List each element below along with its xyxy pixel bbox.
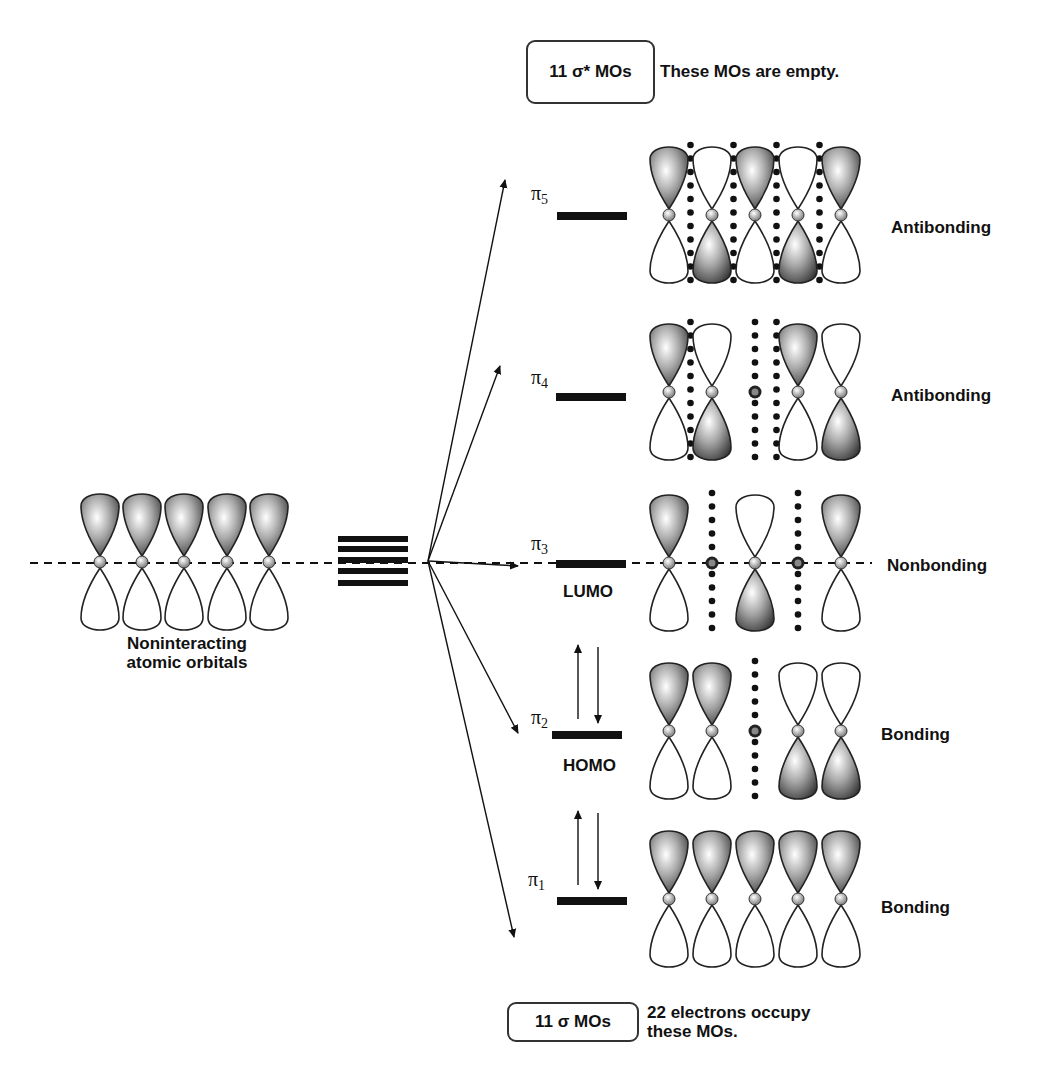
node-dot xyxy=(773,319,780,326)
atom-icon xyxy=(835,725,847,737)
shaded-lobe-icon xyxy=(822,398,860,460)
node-dot xyxy=(752,752,759,759)
open-lobe-icon xyxy=(650,569,688,631)
shaded-lobe-icon xyxy=(822,495,860,557)
open-lobe-icon xyxy=(693,737,731,799)
node-dot xyxy=(816,209,823,216)
node-dot xyxy=(773,142,780,149)
level-label-pi1: π1 xyxy=(528,868,545,894)
node-dot xyxy=(773,223,780,230)
sigma-star-note: These MOs are empty. xyxy=(660,62,839,81)
sigma-note-line2: these MOs. xyxy=(647,1022,810,1041)
node-dot xyxy=(687,236,694,243)
node-dot xyxy=(773,359,780,366)
node-dot xyxy=(816,182,823,189)
node-dot xyxy=(730,182,737,189)
atom-icon xyxy=(835,557,847,569)
atom-icon xyxy=(792,386,804,398)
node-dot xyxy=(773,250,780,257)
node-dot xyxy=(752,359,759,366)
open-lobe-icon xyxy=(650,737,688,799)
node-dot xyxy=(752,766,759,773)
node-dot xyxy=(730,250,737,257)
open-lobe-icon xyxy=(81,568,119,630)
open-lobe-icon xyxy=(650,221,688,283)
shaded-lobe-icon xyxy=(81,494,119,556)
correlation-arrow xyxy=(428,366,500,561)
node-dot xyxy=(773,386,780,393)
node-dot xyxy=(687,319,694,326)
atom-icon xyxy=(221,556,233,568)
shaded-lobe-icon xyxy=(693,831,731,893)
atom-icon xyxy=(263,556,275,568)
correlation-arrow xyxy=(428,180,505,561)
atom-icon xyxy=(136,556,148,568)
shaded-lobe-icon xyxy=(736,569,774,631)
atom-icon xyxy=(178,556,190,568)
node-dot xyxy=(709,598,716,605)
mo-picture-pi2 xyxy=(650,658,860,800)
node-dot xyxy=(730,169,737,176)
mo-picture-pi5 xyxy=(650,142,860,284)
node-dot xyxy=(709,490,716,497)
ao-label-line1: Noninteracting xyxy=(92,634,282,653)
sigma-note-line1: 22 electrons occupy xyxy=(647,1003,810,1022)
atom-icon xyxy=(792,725,804,737)
shaded-lobe-icon xyxy=(736,831,774,893)
level-bar-pi3 xyxy=(556,560,626,568)
atomic-orbitals-label: Noninteracting atomic orbitals xyxy=(92,634,282,672)
mo-picture-pi3 xyxy=(650,490,860,632)
shaded-lobe-icon xyxy=(693,663,731,725)
node-dot xyxy=(752,319,759,326)
node-dot xyxy=(795,625,802,632)
node-dot xyxy=(773,427,780,434)
node-dot xyxy=(816,250,823,257)
atom-icon xyxy=(749,893,761,905)
node-dot xyxy=(687,223,694,230)
correlation-arrow xyxy=(428,561,518,733)
open-lobe-icon xyxy=(822,569,860,631)
character-pi4: Antibonding xyxy=(891,386,991,406)
energy-bar xyxy=(338,580,408,586)
node-dot xyxy=(773,400,780,407)
shaded-lobe-icon xyxy=(123,494,161,556)
node-dot xyxy=(816,236,823,243)
node-dot xyxy=(795,530,802,537)
node-dot xyxy=(752,346,759,353)
node-dot xyxy=(687,169,694,176)
mo-diagram: 11 σ* MOs These MOs are empty. 11 σ MOs … xyxy=(0,0,1043,1080)
open-lobe-icon xyxy=(650,398,688,460)
node-dot xyxy=(709,530,716,537)
shaded-lobe-icon xyxy=(822,147,860,209)
mo-picture-pi4 xyxy=(650,319,860,461)
node-dot xyxy=(687,182,694,189)
node-dot xyxy=(773,182,780,189)
character-pi2: Bonding xyxy=(881,725,950,745)
level-bar-pi1 xyxy=(557,897,627,905)
open-lobe-icon xyxy=(123,568,161,630)
shaded-lobe-icon xyxy=(736,147,774,209)
node-dot xyxy=(730,277,737,284)
node-dot xyxy=(773,169,780,176)
shaded-lobe-icon xyxy=(650,831,688,893)
atom-icon xyxy=(749,557,761,569)
open-lobe-icon xyxy=(779,398,817,460)
ao-label-line2: atomic orbitals xyxy=(92,653,282,672)
level-label-pi3: π3 xyxy=(531,532,548,558)
shaded-lobe-icon xyxy=(650,663,688,725)
shaded-lobe-icon xyxy=(822,737,860,799)
node-dot xyxy=(816,196,823,203)
node-dot xyxy=(773,196,780,203)
character-pi1: Bonding xyxy=(881,898,950,918)
sigma-label: 11 σ MOs xyxy=(535,1012,611,1032)
open-lobe-icon xyxy=(165,568,203,630)
node-dot xyxy=(773,373,780,380)
open-lobe-icon xyxy=(822,221,860,283)
node-dot xyxy=(816,277,823,284)
node-dot xyxy=(687,386,694,393)
node-dot xyxy=(795,517,802,524)
node-dot xyxy=(687,209,694,216)
node-dot xyxy=(752,400,759,407)
open-lobe-icon xyxy=(822,324,860,386)
shaded-lobe-icon xyxy=(650,495,688,557)
